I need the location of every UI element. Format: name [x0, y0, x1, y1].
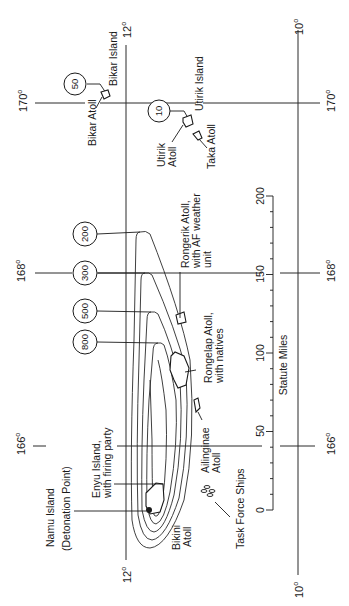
lat-label-12-bottom: 12o — [120, 567, 133, 583]
leader-500 — [97, 311, 151, 312]
detonation-point — [146, 507, 152, 513]
label-rongerik-3: unit — [201, 251, 213, 268]
scale-bar-title: Statute Miles — [277, 335, 289, 396]
label-ailinginae-2: Atoll — [210, 453, 222, 473]
task-force-ships-icon — [201, 486, 215, 497]
scale-label-200: 200 — [254, 187, 266, 205]
fallout-map: 12o 12o 10o 10o 170o 170o 168o 168o 166o… — [0, 0, 349, 606]
scale-label-100: 100 — [254, 344, 266, 362]
lon-label-166-left: 166o — [14, 433, 27, 455]
label-enyu-2: with firing party — [101, 427, 113, 499]
ailinginae-atoll-shape — [194, 398, 200, 412]
leader-task-force — [215, 502, 230, 517]
contour-label-10: 10 — [153, 106, 164, 117]
lon-label-168-right: 168o — [324, 260, 337, 282]
contour-label-50: 50 — [69, 79, 80, 90]
leader-800 — [97, 342, 158, 343]
leader-utirik-atoll — [172, 125, 183, 142]
contour-label-200: 200 — [79, 226, 90, 242]
contour-label-300: 300 — [79, 265, 90, 281]
label-rongelap-2: with natives — [213, 328, 225, 384]
label-utirik-island: Utirik Island — [193, 56, 205, 111]
lon-label-168-left: 168o — [14, 260, 27, 282]
scale-label-50: 50 — [254, 425, 266, 437]
label-bikar-island: Bikar Island — [107, 31, 119, 86]
contour-label-800: 800 — [79, 334, 90, 350]
bikar-atoll-shape — [101, 90, 110, 99]
label-bikar-atoll: Bikar Atoll — [86, 99, 98, 146]
label-bikini-2: Atoll — [181, 527, 193, 547]
leader-200 — [97, 232, 140, 234]
label-namu-2: (Detonation Point) — [60, 466, 72, 551]
label-taka-atoll: Taka Atoll — [205, 124, 217, 169]
contour-label-500: 500 — [79, 303, 90, 319]
taka-atoll-shape — [193, 131, 202, 140]
label-task-force-ships: Task Force Ships — [234, 468, 246, 549]
rongerik-atoll-shape — [176, 312, 186, 324]
label-namu-1: Namu Island — [44, 488, 56, 547]
label-utirik-atoll-2: Atoll — [166, 147, 178, 167]
leader-ailinginae — [198, 412, 202, 420]
lat-label-10-bottom: 10o — [292, 582, 305, 598]
scale-label-0: 0 — [254, 507, 266, 513]
lat-label-12-top: 12o — [120, 22, 133, 38]
lon-label-170-left: 170o — [16, 90, 29, 112]
scale-bar — [266, 196, 273, 510]
lat-label-10-top: 10o — [292, 19, 305, 35]
utirik-atoll-shape — [183, 115, 193, 127]
scale-label-150: 150 — [254, 265, 266, 283]
lon-label-166-right: 166o — [324, 433, 337, 455]
lon-label-170-right: 170o — [324, 90, 337, 112]
